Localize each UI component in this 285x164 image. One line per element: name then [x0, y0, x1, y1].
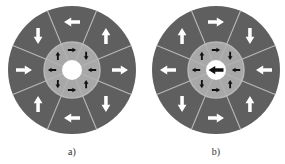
disc-panel-a	[8, 6, 136, 134]
panel-label-a: a)	[57, 146, 87, 157]
figure	[0, 0, 285, 164]
disc-panel-b	[152, 6, 280, 134]
center-hole	[62, 60, 82, 80]
panel-label-b: b)	[201, 146, 231, 157]
